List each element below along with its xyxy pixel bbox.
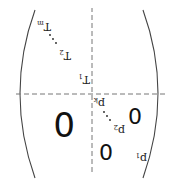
ellipsis-dot-T xyxy=(49,34,51,36)
zero-block-upper-right-small: 0 xyxy=(99,139,113,164)
entry-T2: T2 xyxy=(59,48,71,62)
zero-block-upper-right-large: 0 xyxy=(53,104,75,144)
block-matrix-diagram: p1 p2 pk 0 0 0 T1 T2 Tm xyxy=(0,0,177,186)
entry-T1: T1 xyxy=(78,72,90,86)
rotated-group: p1 p2 pk 0 0 0 T1 T2 Tm xyxy=(15,8,165,178)
ellipsis-dot-p xyxy=(109,119,111,121)
ellipsis-dot-p xyxy=(103,111,105,113)
entry-p1: p1 xyxy=(135,151,147,165)
ellipsis-dot-T xyxy=(55,42,57,44)
ellipsis-dot-p xyxy=(106,115,108,117)
zero-block-upper-right-mid: 0 xyxy=(128,103,142,128)
ellipsis-dot-T xyxy=(52,38,54,40)
entry-p2: p2 xyxy=(113,123,125,137)
entry-Tm: Tm xyxy=(37,19,51,33)
entry-pk: pk xyxy=(93,96,105,110)
